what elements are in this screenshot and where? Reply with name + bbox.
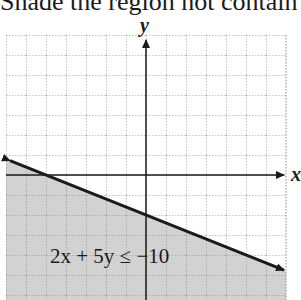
x-axis-label: x — [290, 163, 301, 185]
y-axis-label: y — [138, 14, 149, 37]
coordinate-graph: y x 2x + 5y ≤ −10 — [0, 0, 301, 300]
inequality-label: 2x + 5y ≤ −10 — [50, 244, 169, 268]
